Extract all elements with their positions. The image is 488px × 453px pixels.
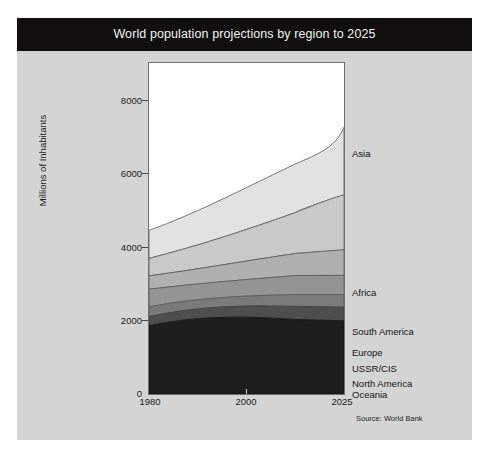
- y-axis-label: Millions of Inhabitants: [37, 81, 48, 241]
- chart-title-bar: World population projections by region t…: [17, 18, 472, 51]
- plot-svg: [149, 63, 344, 394]
- y-tick-2000: 2000: [121, 315, 142, 326]
- y-tick-6000: 6000: [121, 168, 142, 179]
- series-label-africa: Africa: [352, 287, 376, 298]
- series-label-ussr-cis: USSR/CIS: [352, 363, 397, 374]
- series-label-oceania: Oceania: [352, 389, 387, 400]
- series-label-north-america: North America: [352, 378, 412, 389]
- source-note: Source: World Bank: [356, 414, 423, 423]
- x-tick-2000: 2000: [235, 396, 256, 407]
- area-oceania-band: [149, 317, 344, 394]
- y-tick-8000: 8000: [121, 95, 142, 106]
- series-label-europe: Europe: [352, 347, 383, 358]
- page-title: World population projections by region t…: [17, 18, 472, 51]
- y-axis-tick-labels: 0 2000 4000 6000 8000: [96, 62, 142, 393]
- y-tick-4000: 4000: [121, 242, 142, 253]
- stacked-area-plot: [148, 62, 345, 395]
- area-series-group: [149, 127, 344, 394]
- series-label-south-america: South America: [352, 326, 414, 337]
- x-tick-2025: 2025: [331, 396, 352, 407]
- x-tick-1980: 1980: [139, 396, 160, 407]
- series-label-asia: Asia: [352, 148, 370, 159]
